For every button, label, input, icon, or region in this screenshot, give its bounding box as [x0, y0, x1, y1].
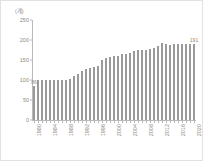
bar	[53, 80, 55, 120]
x-tick-mark	[126, 121, 127, 123]
bar	[125, 54, 127, 120]
bar	[117, 56, 119, 120]
x-tick-mark	[102, 121, 103, 123]
bar	[185, 44, 187, 120]
x-tick-mark	[194, 121, 195, 123]
x-tick-mark	[54, 121, 55, 123]
bar	[93, 67, 95, 120]
x-tick-mark	[162, 121, 163, 123]
x-tick-mark	[74, 121, 75, 123]
x-tick-mark	[122, 121, 123, 123]
x-tick-mark	[118, 121, 119, 123]
x-tick-label: 1980	[36, 124, 42, 136]
bar-value-label: 191	[190, 37, 198, 43]
x-tick-mark	[106, 121, 107, 123]
bar	[85, 69, 87, 120]
x-tick-mark	[50, 121, 51, 123]
x-tick-mark	[90, 121, 91, 123]
bar	[41, 80, 43, 120]
bar	[89, 68, 91, 120]
x-tick-label: 2012	[164, 124, 170, 136]
bar	[181, 44, 183, 120]
bar	[77, 74, 79, 120]
chart-screenshot: (개) 050100150200250 86191 19801984198819…	[0, 0, 203, 161]
bar	[157, 46, 159, 120]
bar	[145, 50, 147, 120]
bar	[49, 80, 51, 120]
bar	[173, 44, 175, 120]
x-tick-label: 1988	[68, 124, 74, 136]
x-tick-mark	[150, 121, 151, 123]
x-tick-mark	[190, 121, 191, 123]
x-tick-mark	[170, 121, 171, 123]
x-axis-ticks: 1980198419881992199620002004200820122016…	[32, 121, 196, 161]
plot-area: 050100150200250 86191	[32, 20, 196, 120]
x-tick-mark	[110, 121, 111, 123]
x-tick-mark	[46, 121, 47, 123]
x-tick-mark	[174, 121, 175, 123]
x-tick-mark	[186, 121, 187, 123]
bar	[61, 80, 63, 120]
x-tick-mark	[114, 121, 115, 123]
x-tick-mark	[178, 121, 179, 123]
bar	[129, 53, 131, 120]
x-tick-mark	[34, 121, 35, 123]
bar	[153, 48, 155, 120]
y-tick-label: 100	[20, 77, 29, 83]
y-axis-unit-label: (개)	[15, 7, 24, 15]
x-tick-mark	[86, 121, 87, 123]
bar-series: 86191	[32, 20, 196, 120]
bar	[81, 71, 83, 120]
x-tick-mark	[154, 121, 155, 123]
x-tick-mark	[94, 121, 95, 123]
bar	[177, 44, 179, 120]
x-tick-label: 1996	[100, 124, 106, 136]
x-tick-mark	[142, 121, 143, 123]
x-tick-label: 1984	[52, 124, 58, 136]
bar	[33, 86, 35, 120]
y-tick-label: 250	[20, 17, 29, 23]
x-tick-mark	[98, 121, 99, 123]
bar	[149, 49, 151, 120]
bar	[65, 80, 67, 120]
bar	[105, 58, 107, 120]
x-tick-mark	[38, 121, 39, 123]
x-tick-mark	[134, 121, 135, 123]
x-tick-label: 2020	[196, 124, 202, 136]
bar	[57, 80, 59, 120]
bar	[37, 80, 39, 120]
x-tick-label: 2008	[148, 124, 154, 136]
x-tick-mark	[130, 121, 131, 123]
x-tick-mark	[182, 121, 183, 123]
bar	[141, 50, 143, 120]
x-tick-mark	[58, 121, 59, 123]
bar	[133, 51, 135, 120]
bar	[121, 54, 123, 120]
bar	[161, 43, 163, 120]
x-tick-mark	[66, 121, 67, 123]
bar	[193, 44, 195, 120]
y-tick-label: 150	[20, 57, 29, 63]
bar	[97, 66, 99, 120]
bar	[113, 56, 115, 120]
bar	[45, 80, 47, 120]
bar	[109, 57, 111, 120]
x-tick-mark	[146, 121, 147, 123]
x-tick-label: 2016	[180, 124, 186, 136]
x-tick-mark	[70, 121, 71, 123]
bar	[69, 79, 71, 120]
x-tick-label: 2000	[116, 124, 122, 136]
x-tick-mark	[62, 121, 63, 123]
x-tick-label: 2004	[132, 124, 138, 136]
bar	[165, 44, 167, 120]
x-tick-mark	[166, 121, 167, 123]
y-tick-label: 200	[20, 37, 29, 43]
y-tick-label: 50	[23, 97, 29, 103]
y-tick-label: 0	[26, 117, 29, 123]
bar	[169, 45, 171, 120]
bar	[73, 76, 75, 120]
bar-item: 191	[192, 20, 196, 120]
x-tick-mark	[138, 121, 139, 123]
x-tick-mark	[158, 121, 159, 123]
x-tick-mark	[78, 121, 79, 123]
